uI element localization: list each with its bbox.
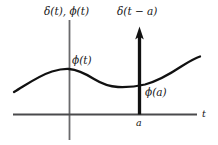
y-axis-label: δ(t), ϕ(t) [44, 6, 89, 17]
impulse-value-label: ϕ(a) [145, 87, 167, 98]
impulse-label: δ(t − a) [117, 6, 157, 17]
impulse-function-figure: δ(t), ϕ(t) δ(t − a) ϕ(t) ϕ(a) a t [0, 0, 218, 145]
figure-canvas [0, 0, 218, 145]
curve-label: ϕ(t) [72, 55, 92, 66]
x-axis-label: t [202, 109, 206, 119]
figure-background [0, 0, 218, 145]
impulse-location-tick-label: a [136, 118, 142, 128]
